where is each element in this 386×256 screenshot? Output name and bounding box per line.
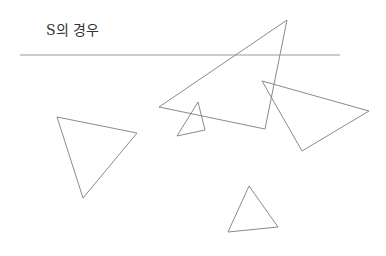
bottom-triangle (228, 186, 278, 232)
small-triangle (177, 102, 205, 136)
right-triangle (262, 81, 369, 151)
large-triangle (159, 20, 287, 129)
diagram-canvas (0, 0, 386, 256)
left-triangle (57, 117, 137, 198)
